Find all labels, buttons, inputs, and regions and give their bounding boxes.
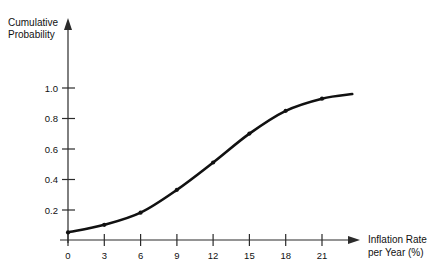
y-axis-title-line2: Probability	[8, 29, 55, 40]
cumulative-probability-curve	[68, 94, 352, 232]
data-point	[102, 223, 106, 227]
y-tick-label-0.6: 0.6	[45, 144, 58, 155]
x-tick-label-6: 6	[138, 250, 143, 261]
y-tick-label-0.4: 0.4	[45, 174, 58, 185]
data-point	[247, 132, 251, 136]
data-point	[211, 160, 215, 164]
data-point-markers	[66, 97, 324, 235]
x-tick-label-9: 9	[174, 250, 179, 261]
data-point	[175, 188, 179, 192]
chart-container: Cumulative Probability 1.0 0.8 0.6 0.4 0…	[0, 0, 439, 278]
data-point	[138, 211, 142, 215]
x-tick-label-18: 18	[280, 250, 291, 261]
x-tick-label-21: 21	[317, 250, 328, 261]
data-point	[66, 230, 70, 234]
x-tick-label-15: 15	[244, 250, 255, 261]
y-axis-title-line1: Cumulative	[8, 17, 58, 28]
x-tick-label-3: 3	[102, 250, 107, 261]
data-point	[320, 97, 324, 101]
x-axis-title-line1: Inflation Rate	[368, 234, 427, 245]
x-tick-label-0: 0	[65, 250, 70, 261]
x-axis-arrow-icon	[348, 236, 360, 244]
data-point	[284, 109, 288, 113]
y-axis-arrow-icon	[64, 18, 72, 30]
y-tick-label-0.2: 0.2	[45, 205, 58, 216]
y-tick-label-1.0: 1.0	[45, 83, 58, 94]
x-tick-label-12: 12	[208, 250, 219, 261]
y-tick-label-0.8: 0.8	[45, 113, 58, 124]
x-axis-title-line2: per Year (%)	[368, 247, 424, 258]
cumulative-probability-chart: Cumulative Probability 1.0 0.8 0.6 0.4 0…	[0, 0, 439, 278]
